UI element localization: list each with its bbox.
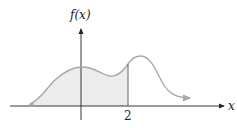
- left-tail-arrow-icon: [28, 102, 34, 106]
- x-tick-label-2: 2: [124, 109, 132, 123]
- y-axis-label: f(x): [69, 8, 91, 22]
- shaded-area: [31, 64, 128, 106]
- x-axis-label: x: [228, 99, 235, 113]
- graph: f(x) x 2: [0, 0, 237, 128]
